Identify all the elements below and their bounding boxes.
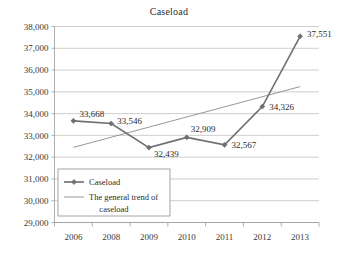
y-axis-tick-labels: 29,00030,00031,00032,00033,00034,00035,0… xyxy=(24,22,49,228)
x-axis-tick-label: 2008 xyxy=(102,232,121,242)
y-axis-tick-label: 32,000 xyxy=(24,152,49,162)
y-axis-tick-label: 37,000 xyxy=(24,43,49,53)
y-axis-tick-label: 33,000 xyxy=(24,131,49,141)
y-axis-tick-label: 31,000 xyxy=(24,174,49,184)
legend-label-trend: The general trend of xyxy=(89,192,158,202)
x-axis-tick-label: 2012 xyxy=(253,232,271,242)
data-point-label: 32,567 xyxy=(232,140,257,150)
y-axis-tick-label: 30,000 xyxy=(24,196,49,206)
data-point-label: 33,668 xyxy=(79,109,104,119)
data-point-marker xyxy=(71,118,76,123)
x-axis-tick-label: 2006 xyxy=(64,232,83,242)
chart-legend: CaseloadThe general trend ofcaseload xyxy=(58,169,170,216)
data-point-label: 32,909 xyxy=(191,124,216,134)
x-axis-tick-labels: 2006200820092010201120122013 xyxy=(64,232,309,242)
data-point-label: 33,546 xyxy=(117,116,142,126)
x-axis-tick-label: 2009 xyxy=(140,232,159,242)
data-point-label: 37,551 xyxy=(307,29,332,39)
y-axis-tick-label: 35,000 xyxy=(24,87,49,97)
chart-container: Caseload 29,00030,00031,00032,00033,0003… xyxy=(0,0,338,253)
y-axis-tick-label: 34,000 xyxy=(24,109,49,119)
chart-plot-area: 29,00030,00031,00032,00033,00034,00035,0… xyxy=(0,0,338,253)
data-point-label: 34,326 xyxy=(269,102,294,112)
y-axis-tick-label: 38,000 xyxy=(24,22,49,32)
y-axis-tick-label: 29,000 xyxy=(24,218,49,228)
x-axis-tick-label: 2013 xyxy=(291,232,310,242)
x-axis-tick-label: 2011 xyxy=(216,232,234,242)
y-tick-marks-group xyxy=(52,27,55,223)
data-point-label: 32,439 xyxy=(154,149,179,159)
y-axis-tick-label: 36,000 xyxy=(24,65,49,75)
legend-label-trend-line2: caseload xyxy=(99,204,129,214)
x-axis-tick-label: 2010 xyxy=(178,232,197,242)
legend-label-caseload: Caseload xyxy=(89,177,121,187)
